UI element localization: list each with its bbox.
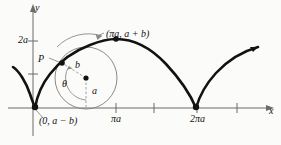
x-tick-label-2pia: 2πa xyxy=(190,114,205,124)
x-tick-label-pia: πa xyxy=(111,114,121,124)
peak-point-label: (πa, a + b) xyxy=(106,29,149,39)
y-tick-label-2a: 2a xyxy=(18,35,28,45)
y-axis-label: y xyxy=(35,3,39,13)
rotation-arrow-arc xyxy=(57,34,102,47)
rotation-direction-arrow xyxy=(57,34,102,47)
angle-theta-label: θ xyxy=(62,79,67,89)
leader-line-group xyxy=(36,33,104,119)
cusp-point-label: (0, a − b) xyxy=(39,116,77,126)
x-axis-label: x xyxy=(269,106,273,116)
cycloid-arc-left-tail xyxy=(13,67,35,108)
point-P-dot xyxy=(59,60,65,66)
cusp-point-dot-right xyxy=(193,104,199,110)
theta-arc xyxy=(66,66,86,100)
cycloid-curve-group xyxy=(13,36,258,110)
radius-a-label: a xyxy=(92,86,97,96)
leader-line-P xyxy=(49,58,59,62)
curtate-cycloid-figure: y x 2a πa 2πa (πa, a + b) (0, a − b) P b… xyxy=(0,0,281,145)
cycloid-arch-main xyxy=(35,39,196,108)
segment-b-label: b xyxy=(75,60,80,70)
circle-center-dot xyxy=(83,75,88,80)
point-P-label: P xyxy=(38,54,44,64)
cycloid-arc-right-tail xyxy=(196,47,258,108)
cusp-point-dot-left xyxy=(32,104,38,110)
